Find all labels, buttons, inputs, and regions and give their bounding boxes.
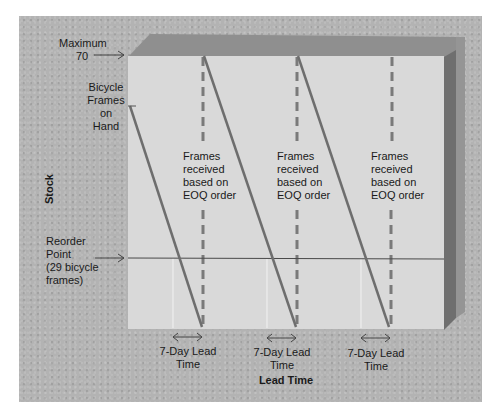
frame-top-band bbox=[128, 34, 465, 57]
received-label-2: Frames received based on EOQ order bbox=[277, 150, 330, 202]
lead-time-label-1: 7-Day Lead Time bbox=[152, 345, 224, 371]
frame-right-bevel bbox=[444, 50, 456, 330]
frame-right-band bbox=[456, 37, 465, 318]
lead-time-arrows bbox=[173, 333, 390, 342]
received-label-3: Frames received based on EOQ order bbox=[371, 150, 424, 202]
inventory-diagram: Maximum 70 Bicycle Frames on Hand Reorde… bbox=[0, 0, 499, 417]
lead-time-label-3: 7-Day Lead Time bbox=[340, 347, 412, 373]
maximum-value: 70 bbox=[76, 50, 88, 63]
received-label-1: Frames received based on EOQ order bbox=[183, 150, 236, 202]
y-axis-label: Stock bbox=[43, 174, 55, 204]
reorder-point-label: Reorder Point (29 bicycle frames) bbox=[46, 235, 99, 287]
lead-time-label-2: 7-Day Lead Time bbox=[246, 346, 318, 372]
maximum-label: Maximum bbox=[59, 37, 107, 50]
x-axis-label: Lead Time bbox=[246, 374, 326, 387]
on-hand-label: Bicycle Frames on Hand bbox=[84, 81, 128, 133]
